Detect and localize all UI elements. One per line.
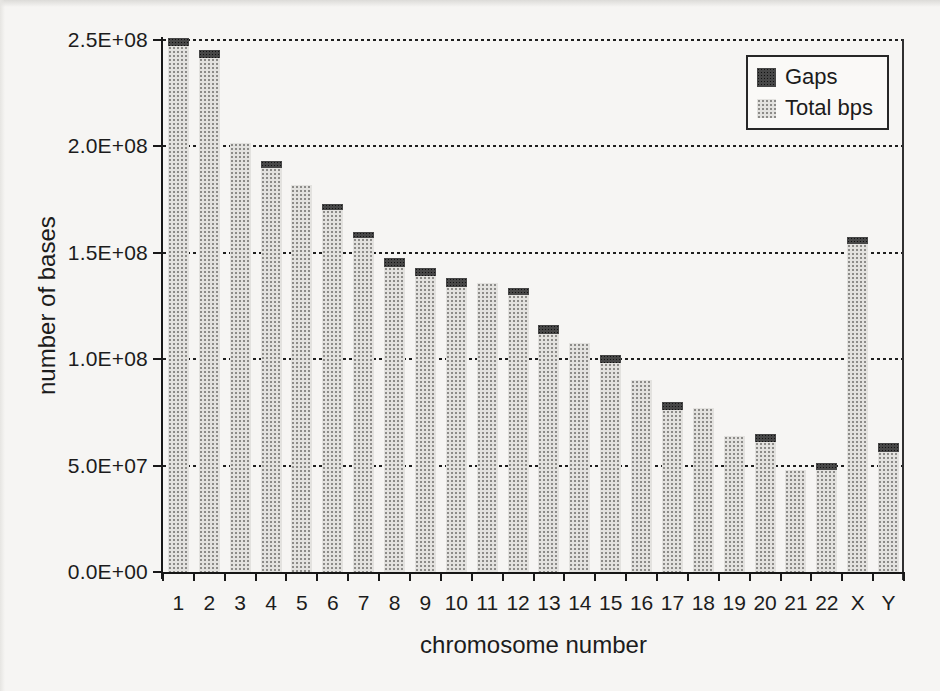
bar-slot (225, 143, 256, 572)
gaps-segment (415, 268, 436, 277)
gaps-segment (384, 258, 405, 267)
bar-chr-4 (261, 161, 282, 572)
x-axis-line (161, 572, 905, 574)
x-axis-tick-label: 20 (750, 591, 781, 615)
total-bps-segment (878, 452, 899, 572)
scan-edge-left (0, 0, 5, 691)
x-axis-tick (749, 573, 751, 581)
x-axis-tick (872, 573, 874, 581)
x-axis-tick (193, 573, 195, 581)
gaps-swatch-icon (757, 68, 776, 87)
x-axis-tick (718, 573, 720, 581)
x-axis-tick-label: 10 (441, 591, 472, 615)
total-bps-segment (322, 210, 343, 572)
bar-chr-16 (631, 380, 652, 572)
total-bps-segment (538, 334, 559, 572)
x-axis-tick (841, 573, 843, 581)
x-axis-tick (409, 573, 411, 581)
bar-chr-13 (538, 325, 559, 572)
x-axis-tick-label: 5 (287, 591, 318, 615)
bar-chr-17 (662, 402, 683, 572)
x-axis-tick-label: X (842, 591, 873, 615)
x-axis-tick (316, 573, 318, 581)
total-bps-segment (631, 380, 652, 572)
bar-slot (163, 38, 194, 572)
gaps-segment (847, 237, 868, 244)
legend-item-gaps: Gaps (757, 64, 883, 90)
total-bps-segment (693, 408, 714, 572)
bar-slot (194, 50, 225, 572)
bar-slot (534, 325, 565, 572)
x-axis-tick-label: Y (873, 591, 904, 615)
x-axis-tick-label: 18 (688, 591, 719, 615)
total-bps-segment (724, 436, 745, 572)
bar-slot (503, 288, 534, 572)
x-axis-tick (594, 573, 596, 581)
x-axis-tick-label: 22 (811, 591, 842, 615)
bar-chr-20 (755, 434, 776, 572)
bar-slot (317, 204, 348, 572)
bar-slot (379, 258, 410, 572)
gaps-segment (446, 278, 467, 287)
bar-chr-5 (291, 185, 312, 572)
x-axis-tick-label: 13 (534, 591, 565, 615)
x-axis-tick-label: 4 (256, 591, 287, 615)
bar-chr-2 (199, 50, 220, 572)
total-bps-segment (199, 58, 220, 572)
legend-label-total-bps: Total bps (785, 95, 873, 121)
total-bps-segment (508, 295, 529, 572)
chart-figure: number of bases 0.0E+005.0E+071.0E+081.5… (0, 0, 940, 691)
x-axis-tick-label: 14 (564, 591, 595, 615)
bar-chr-10 (446, 278, 467, 572)
x-axis-tick-labels: 12345678910111213141516171819202122XY (163, 591, 904, 615)
x-axis-tick-label: 19 (719, 591, 750, 615)
total-bps-segment (384, 267, 405, 572)
bar-chr-22 (816, 463, 837, 572)
bar-slot (287, 185, 318, 572)
bar-chr-14 (569, 343, 590, 572)
bar-slot (410, 268, 441, 572)
x-axis-tick (378, 573, 380, 581)
bar-chr-21 (785, 470, 806, 572)
bar-slot (750, 434, 781, 572)
bar-chr-11 (477, 283, 498, 572)
y-axis-tick-label: 1.5E+08 (40, 241, 148, 265)
bar-chr-15 (600, 355, 621, 572)
total-bps-segment (230, 143, 251, 572)
scan-edge-top (0, 0, 940, 7)
total-bps-segment (816, 470, 837, 572)
x-axis-tick-label: 2 (194, 591, 225, 615)
gaps-segment (508, 288, 529, 296)
x-axis-tick (471, 573, 473, 581)
total-bps-segment (291, 185, 312, 572)
y-axis-tick-label: 2.5E+08 (40, 28, 148, 52)
bar-chr-X (847, 237, 868, 572)
x-axis-tick-label: 21 (781, 591, 812, 615)
bar-slot (842, 237, 873, 572)
total-bps-segment (662, 410, 683, 572)
x-axis-tick (903, 573, 905, 581)
x-axis-tick-label: 15 (595, 591, 626, 615)
x-axis-title: chromosome number (163, 631, 904, 659)
total-bps-segment (168, 46, 189, 572)
total-bps-segment (569, 343, 590, 572)
gaps-segment (168, 38, 189, 47)
bar-slot (873, 443, 904, 572)
total-bps-swatch-icon (757, 99, 776, 118)
x-axis-tick-label: 17 (657, 591, 688, 615)
bar-chr-12 (508, 288, 529, 572)
x-axis-tick-label: 6 (317, 591, 348, 615)
gaps-segment (538, 325, 559, 334)
bar-slot (657, 402, 688, 572)
total-bps-segment (477, 283, 498, 572)
bar-slot (811, 463, 842, 572)
x-axis-tick (656, 573, 658, 581)
total-bps-segment (847, 244, 868, 572)
bar-chr-6 (322, 204, 343, 572)
gaps-segment (878, 443, 899, 452)
bar-slot (256, 161, 287, 572)
legend-item-total-bps: Total bps (757, 95, 883, 121)
x-axis-tick-label: 12 (503, 591, 534, 615)
total-bps-segment (785, 470, 806, 572)
total-bps-segment (353, 238, 374, 572)
